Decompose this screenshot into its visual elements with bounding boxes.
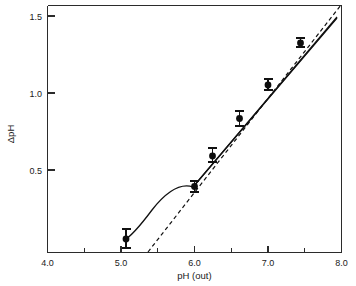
x-axis-major-ticks [48, 246, 342, 253]
x-tick-label: 6.0 [188, 258, 201, 268]
data-point [297, 40, 304, 47]
x-tick-label: 4.0 [41, 258, 54, 268]
ph-gradient-figure: 4.0 5.0 6.0 7.0 8.0 0.5 1.0 1.5 pH (out)… [0, 0, 356, 286]
plot-area: 4.0 5.0 6.0 7.0 8.0 0.5 1.0 1.5 pH (out)… [0, 0, 356, 286]
data-point [265, 82, 272, 89]
y-axis-major-ticks [48, 16, 56, 170]
data-point [236, 115, 243, 122]
x-axis-title: pH (out) [177, 270, 211, 281]
error-bars [122, 38, 306, 248]
data-point [191, 183, 198, 190]
y-axis-title: ΔpH [5, 125, 16, 144]
y-tick-label: 0.5 [29, 166, 42, 176]
x-axis-tick-labels: 4.0 5.0 6.0 7.0 8.0 [41, 258, 348, 268]
linear-extrapolation-line [148, 5, 341, 252]
y-tick-label: 1.0 [29, 89, 42, 99]
y-tick-label: 1.5 [29, 12, 42, 22]
fitted-curve-upper [194, 17, 338, 187]
y-axis-tick-labels: 0.5 1.0 1.5 [29, 12, 42, 176]
x-tick-label: 5.0 [115, 258, 128, 268]
x-tick-label: 8.0 [335, 258, 348, 268]
data-point [123, 236, 130, 243]
x-tick-label: 7.0 [262, 258, 275, 268]
data-point [209, 153, 216, 160]
